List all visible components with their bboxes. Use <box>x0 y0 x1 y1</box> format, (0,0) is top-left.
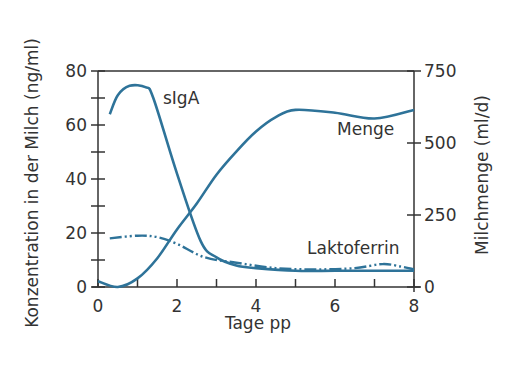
x-tick-label: 2 <box>172 296 183 316</box>
y2-tick-label: 750 <box>424 61 456 81</box>
y2-tick-label: 0 <box>424 277 435 297</box>
y-tick-label: 20 <box>65 223 87 243</box>
x-tick-label: 8 <box>409 296 420 316</box>
right-y-axis-title: Milchmenge (ml/d) <box>472 95 492 255</box>
label-laktoferrin: Laktoferrin <box>307 238 399 258</box>
y-tick-label: 60 <box>65 115 87 135</box>
x-axis-title: Tage pp <box>224 313 291 333</box>
tick-labels: 024680204060800250500750 <box>65 61 456 316</box>
label-menge: Menge <box>337 119 394 139</box>
y-tick-label: 0 <box>76 277 87 297</box>
x-tick-label: 6 <box>330 296 341 316</box>
y-tick-label: 40 <box>65 169 87 189</box>
y2-tick-label: 500 <box>424 133 456 153</box>
y-tick-label: 80 <box>65 61 87 81</box>
y2-tick-label: 250 <box>424 205 456 225</box>
label-siga: sIgA <box>163 88 200 108</box>
x-tick-label: 0 <box>93 296 104 316</box>
chart: 024680204060800250500750 sIgA Menge Lakt… <box>0 0 510 366</box>
left-y-axis-title: Konzentration in der Milch (ng/ml) <box>22 38 42 328</box>
